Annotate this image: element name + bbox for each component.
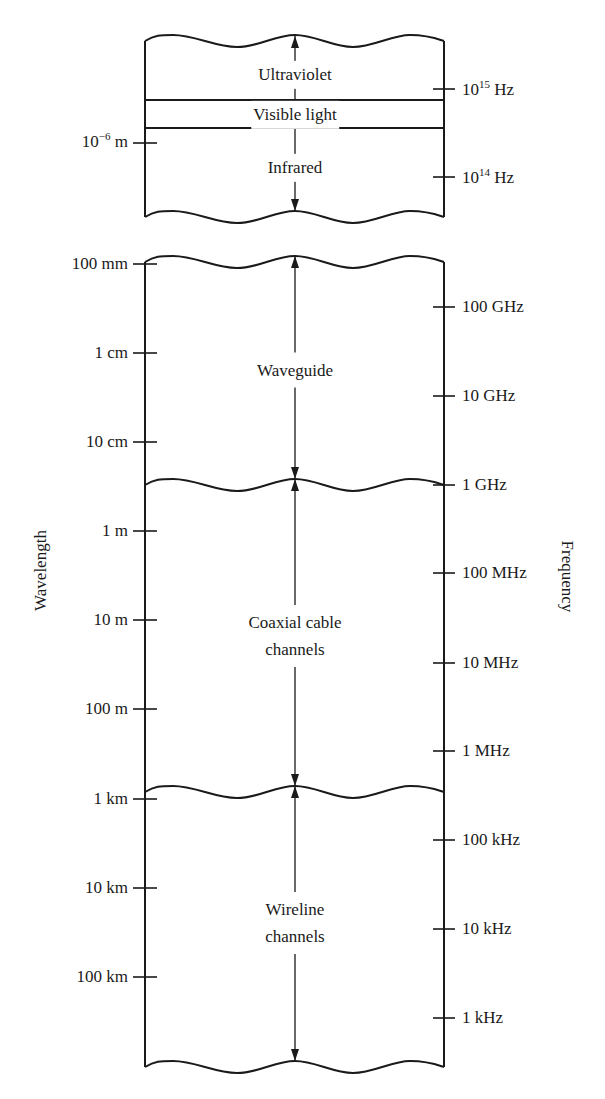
spectrum-diagram: UltravioletVisible lightInfrared Wavegui… (0, 0, 605, 1099)
band-label-ultraviolet: Ultraviolet (256, 61, 334, 89)
wavelength-label: 10−6 m (8, 133, 128, 150)
label-exponent: 15 (479, 78, 490, 90)
arrow-down-icon (291, 774, 299, 786)
frequency-axis-title: Frequency (559, 532, 576, 622)
wavelength-label: 10 m (8, 611, 128, 628)
frequency-label: 1015 Hz (462, 81, 514, 98)
band-label-line: Coaxial cable (249, 609, 342, 636)
band-label-coaxial-cable-channels: Coaxial cablechannels (247, 608, 344, 664)
arrow-up-icon (291, 786, 299, 798)
wavelength-axis-title: Wavelength (32, 526, 49, 616)
label-base: 10 (462, 80, 479, 99)
label-exponent: −6 (99, 130, 111, 142)
frequency-label: 1 kHz (462, 1009, 503, 1026)
band-label-line: channels (249, 636, 342, 663)
band-label-wireline-channels: Wirelinechannels (263, 895, 326, 951)
label-base: 10 (462, 168, 479, 187)
wavelength-label: 10 cm (8, 433, 128, 450)
wavelength-label: 10 km (8, 879, 128, 896)
wavelength-label: 1 km (8, 790, 128, 807)
wavelength-label: 100 km (8, 968, 128, 985)
frequency-label: 100 kHz (462, 831, 520, 848)
frequency-label: 1014 Hz (462, 169, 514, 186)
arrow-up-icon (291, 36, 299, 48)
arrow-down-icon (291, 467, 299, 479)
band-boundary (145, 1061, 444, 1073)
band-label-visible-light: Visible light (251, 101, 339, 129)
wavelength-label: 1 m (8, 522, 128, 539)
wavelength-label: 100 m (8, 700, 128, 717)
frequency-label: 100 MHz (462, 564, 527, 581)
label-unit: Hz (490, 80, 514, 99)
band-label-line: Waveguide (257, 357, 333, 384)
band-label-waveguide: Waveguide (255, 356, 335, 385)
label-base: 10 (82, 132, 99, 151)
frequency-label: 10 kHz (462, 920, 512, 937)
band-label-line: Wireline (265, 896, 324, 923)
band-label-infrared: Infrared (266, 154, 325, 182)
arrow-up-icon (291, 256, 299, 268)
arrow-up-icon (291, 479, 299, 491)
arrow-down-icon (291, 199, 299, 211)
label-unit: Hz (490, 168, 514, 187)
top-box-lower-edge (145, 211, 444, 223)
frequency-label: 1 GHz (462, 476, 507, 493)
frequency-label: 100 GHz (462, 298, 524, 315)
frequency-label: 10 MHz (462, 654, 518, 671)
arrow-down-icon (291, 1049, 299, 1061)
label-exponent: 14 (479, 166, 490, 178)
label-unit: m (111, 132, 128, 151)
frequency-label: 10 GHz (462, 387, 515, 404)
band-label-line: channels (265, 923, 324, 950)
frequency-label: 1 MHz (462, 742, 510, 759)
wavelength-label: 1 cm (8, 344, 128, 361)
wavelength-label: 100 mm (8, 255, 128, 272)
